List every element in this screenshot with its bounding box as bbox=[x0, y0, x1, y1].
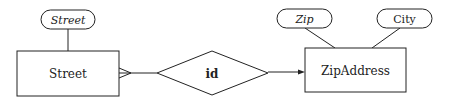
attribute-street[interactable]: Street bbox=[41, 10, 95, 29]
zip-attribute-connector bbox=[305, 28, 335, 48]
attribute-zip-label: Zip bbox=[294, 13, 313, 26]
relationship-id-label: id bbox=[206, 67, 220, 81]
entity-zipaddress[interactable]: ZipAddress bbox=[305, 48, 406, 92]
entity-street-label: Street bbox=[49, 67, 87, 81]
attribute-street-label: Street bbox=[51, 14, 86, 27]
attribute-zip[interactable]: Zip bbox=[277, 9, 332, 28]
entity-street[interactable]: Street bbox=[17, 51, 119, 96]
city-attribute-connector bbox=[372, 28, 400, 48]
relationship-id[interactable]: id bbox=[157, 51, 268, 95]
entity-zipaddress-label: ZipAddress bbox=[321, 64, 390, 78]
attribute-city[interactable]: City bbox=[377, 9, 432, 28]
crows-foot-many-icon bbox=[119, 68, 131, 78]
er-diagram: Street Street id ZipAddress Zip City bbox=[0, 0, 449, 102]
attribute-city-label: City bbox=[393, 13, 416, 26]
arrow-one-icon bbox=[298, 70, 305, 75]
